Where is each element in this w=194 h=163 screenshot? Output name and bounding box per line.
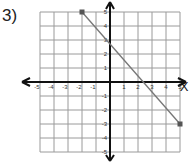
x-axis-label: X <box>180 79 189 94</box>
x-tick-label: 4 <box>164 84 168 90</box>
x-tick-label: -5 <box>34 84 40 90</box>
x-tick-label: 3 <box>150 84 154 90</box>
x-tick-label: -2 <box>76 84 82 90</box>
y-tick-label: -1 <box>102 93 108 99</box>
y-tick-label: -2 <box>102 107 108 113</box>
y-tick-label: -3 <box>102 121 108 127</box>
endpoint-marker <box>178 122 183 127</box>
coordinate-graph: -5-4-3-2-11234554321-1-2-3-4-5X <box>0 0 194 163</box>
x-tick-label: 1 <box>122 84 126 90</box>
x-tick-label: -3 <box>62 84 68 90</box>
x-tick-label: 2 <box>136 84 140 90</box>
y-tick-label: -5 <box>102 149 108 155</box>
x-tick-label: -1 <box>90 84 96 90</box>
x-tick-label: -4 <box>48 84 54 90</box>
y-tick-label: -4 <box>102 135 108 141</box>
endpoint-marker <box>80 10 85 15</box>
